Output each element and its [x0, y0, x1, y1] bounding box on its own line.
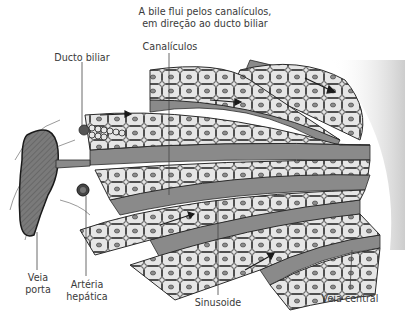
hepatic-artery-label: Artéria hepática — [60, 279, 114, 303]
hepatic-artery-label-line1: Artéria — [60, 279, 114, 291]
portal-vein-label: Veia porta — [18, 272, 58, 296]
canaliculi-label: Canalículos — [140, 41, 200, 53]
bile-flow-caption-line2: em direção ao ducto biliar — [120, 18, 290, 30]
liver-lobule-illustration — [0, 0, 405, 323]
bile-duct-label: Ducto biliar — [50, 52, 114, 64]
hepatic-artery-label-line2: hepática — [60, 291, 114, 303]
hepatic-artery — [77, 184, 89, 196]
central-vein-label: Veia central — [313, 293, 387, 305]
bile-flow-caption-line1: A bile flui pelos canalículos, — [120, 6, 290, 18]
portal-vein-label-line1: Veia — [18, 272, 58, 284]
portal-vein-label-line2: porta — [18, 284, 58, 296]
sinusoid-label: Sinusoide — [186, 297, 250, 309]
bile-flow-caption: A bile flui pelos canalículos, em direçã… — [120, 6, 290, 30]
portal-vein — [19, 130, 90, 236]
